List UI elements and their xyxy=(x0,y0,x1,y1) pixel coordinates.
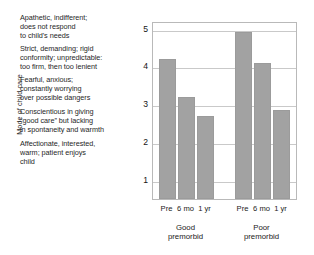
group-label: Poorpremorbid xyxy=(226,223,297,242)
gridline-5 xyxy=(153,31,296,32)
bar xyxy=(273,110,290,199)
bar xyxy=(159,59,176,199)
group-label-line2: premorbid xyxy=(150,232,221,241)
bar xyxy=(178,97,195,199)
y-tick-2: 2 xyxy=(128,137,148,147)
y-tick-5: 5 xyxy=(128,24,148,34)
plot-area xyxy=(152,22,297,200)
group-label-line1: Good xyxy=(150,223,221,232)
bar xyxy=(254,63,271,199)
bar xyxy=(197,116,214,199)
y-tick-1: 1 xyxy=(128,175,148,185)
group-label-line1: Poor xyxy=(226,223,297,232)
chart-figure: Mode of child care Apathetic, indifferen… xyxy=(0,0,314,255)
group-label: Goodpremorbid xyxy=(150,223,221,242)
x-tick-label: 1 yr xyxy=(191,204,218,213)
y-tick-3: 3 xyxy=(128,99,148,109)
bar xyxy=(235,32,252,199)
y-tick-4: 4 xyxy=(128,61,148,71)
group-label-line2: premorbid xyxy=(226,232,297,241)
x-tick-label: 1 yr xyxy=(267,204,294,213)
y-axis-tick-labels: 54321 xyxy=(0,0,152,255)
